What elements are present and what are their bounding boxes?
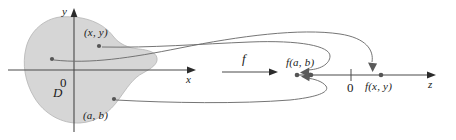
point-unlabeled-dot [50, 57, 54, 61]
diagram-canvas [0, 0, 456, 140]
value-fab-dot-left [295, 73, 300, 78]
mapping-curve-ab [116, 78, 327, 103]
range-origin-label: 0 [347, 81, 354, 94]
z-axis-label: z [428, 79, 432, 90]
point-xy-label: (x, y) [84, 27, 108, 38]
y-axis-arrowhead [71, 8, 78, 17]
point-xy-dot [97, 44, 101, 48]
value-fab-label: f(a, b) [286, 57, 314, 68]
x-axis-label: x [186, 74, 191, 85]
mapping-curve-interior-arrowhead [368, 63, 377, 72]
function-label: f [242, 52, 246, 65]
point-ab-dot [112, 97, 116, 101]
function-arrow-head [269, 69, 278, 76]
value-fxy-dot [379, 73, 384, 78]
value-fab-dot-right [309, 73, 314, 78]
value-fxy-label: f(x, y) [365, 81, 392, 92]
function-mapping-diagram: y x 0 D (x, y) (a, b) f f(a, b) 0 f(x, y… [0, 0, 456, 140]
point-ab-label: (a, b) [83, 110, 108, 121]
y-axis-label: y [62, 6, 67, 17]
domain-region-label: D [53, 86, 63, 99]
